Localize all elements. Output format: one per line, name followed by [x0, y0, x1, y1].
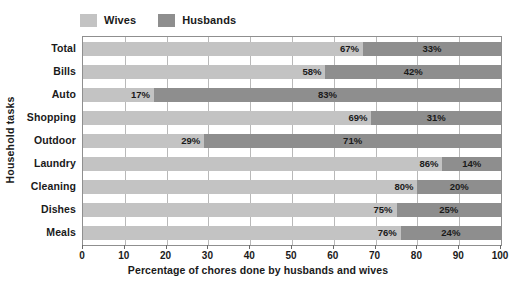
bar-row: 86%14% [83, 157, 501, 171]
bar-segment-husbands: 24% [401, 226, 501, 240]
bar-segment-wives: 76% [83, 226, 401, 240]
bar-segment-husbands: 42% [325, 65, 501, 79]
bar-segment-wives: 67% [83, 42, 363, 56]
legend-entry-husbands: Husbands [158, 14, 236, 27]
bar-value-label-wives: 58% [302, 65, 321, 79]
bar-value-label-wives: 76% [378, 226, 397, 240]
plot-area: 67%33%58%42%17%83%69%31%29%71%86%14%80%2… [82, 36, 502, 246]
x-axis-tick-label: 100 [492, 250, 509, 261]
bar-segment-wives: 69% [83, 111, 371, 125]
x-axis-tick [375, 245, 376, 249]
bar-value-label-wives: 67% [340, 42, 359, 56]
legend-label-husbands: Husbands [182, 14, 236, 26]
x-axis-title: Percentage of chores done by husbands an… [0, 264, 516, 276]
bar-value-label-wives: 69% [348, 111, 367, 125]
x-axis-tick [207, 245, 208, 249]
x-axis-tick-label: 30 [202, 250, 213, 261]
x-axis-tick [166, 245, 167, 249]
y-axis-tick-label: Laundry [34, 156, 76, 170]
bar-segment-husbands: 83% [154, 88, 501, 102]
bar-segment-husbands: 33% [363, 42, 501, 56]
bar-value-label-husbands: 31% [371, 111, 501, 125]
bar-segment-husbands: 31% [371, 111, 501, 125]
y-axis-tick-label: Outdoor [34, 133, 76, 147]
x-axis-tick-label: 70 [369, 250, 380, 261]
bar-value-label-husbands: 83% [154, 88, 501, 102]
bar-value-label-husbands: 42% [325, 65, 501, 79]
y-axis-tick-label: Total [51, 41, 76, 55]
bar-value-label-wives: 29% [181, 134, 200, 148]
bar-row: 76%24% [83, 226, 501, 240]
x-axis-tick [500, 245, 501, 249]
bar-value-label-wives: 86% [419, 157, 438, 171]
x-axis-tick-label: 40 [244, 250, 255, 261]
bar-segment-wives: 58% [83, 65, 325, 79]
x-axis-tick [416, 245, 417, 249]
y-axis-title-text: Household tasks [4, 96, 16, 183]
y-axis-tick-label: Meals [46, 225, 76, 239]
bar-segment-husbands: 71% [204, 134, 501, 148]
x-axis-tick-label: 50 [285, 250, 296, 261]
bar-segment-husbands: 14% [442, 157, 501, 171]
y-axis-tick-label: Dishes [41, 202, 76, 216]
legend-entry-wives: Wives [80, 14, 136, 27]
bar-value-label-wives: 17% [131, 88, 150, 102]
legend-label-wives: Wives [104, 14, 136, 26]
y-axis-tick-label: Cleaning [31, 179, 76, 193]
x-axis-tick-label: 20 [160, 250, 171, 261]
bar-value-label-husbands: 25% [397, 203, 502, 217]
legend-swatch-husbands [158, 14, 175, 27]
bar-value-label-husbands: 71% [204, 134, 501, 148]
bar-segment-wives: 75% [83, 203, 397, 217]
bar-segment-wives: 29% [83, 134, 204, 148]
x-axis-tick [249, 245, 250, 249]
y-axis-tick-label: Shopping [27, 110, 76, 124]
x-axis-tick [82, 245, 83, 249]
x-axis-tick-label: 80 [411, 250, 422, 261]
bar-row: 17%83% [83, 88, 501, 102]
x-axis-tick [124, 245, 125, 249]
chart-legend: Wives Husbands [80, 12, 258, 28]
x-axis-tick-label: 90 [453, 250, 464, 261]
bar-value-label-husbands: 33% [363, 42, 501, 56]
bar-row: 67%33% [83, 42, 501, 56]
x-axis-tick-label: 0 [79, 250, 85, 261]
y-axis-tick-label: Auto [52, 87, 76, 101]
bar-value-label-husbands: 14% [442, 157, 501, 171]
bar-row: 75%25% [83, 203, 501, 217]
bar-row: 69%31% [83, 111, 501, 125]
bar-segment-husbands: 20% [417, 180, 501, 194]
legend-swatch-wives [80, 14, 97, 27]
bar-segment-wives: 17% [83, 88, 154, 102]
bar-value-label-wives: 80% [394, 180, 413, 194]
x-axis-tick-label: 60 [327, 250, 338, 261]
y-axis-tick-labels: TotalBillsAutoShoppingOutdoorLaundryClea… [18, 36, 79, 244]
x-axis-tick-label: 10 [118, 250, 129, 261]
bar-segment-wives: 86% [83, 157, 442, 171]
bar-row: 58%42% [83, 65, 501, 79]
bar-segment-wives: 80% [83, 180, 417, 194]
x-axis-tick [333, 245, 334, 249]
bar-segment-husbands: 25% [397, 203, 502, 217]
x-axis: 0102030405060708090100 [82, 245, 502, 253]
x-axis-tick [291, 245, 292, 249]
bar-row: 29%71% [83, 134, 501, 148]
bar-row: 80%20% [83, 180, 501, 194]
y-axis-title: Household tasks [2, 0, 18, 285]
y-axis-tick-label: Bills [53, 64, 76, 78]
bar-value-label-wives: 75% [373, 203, 392, 217]
bar-value-label-husbands: 20% [417, 180, 501, 194]
x-axis-tick [458, 245, 459, 249]
bar-value-label-husbands: 24% [401, 226, 501, 240]
